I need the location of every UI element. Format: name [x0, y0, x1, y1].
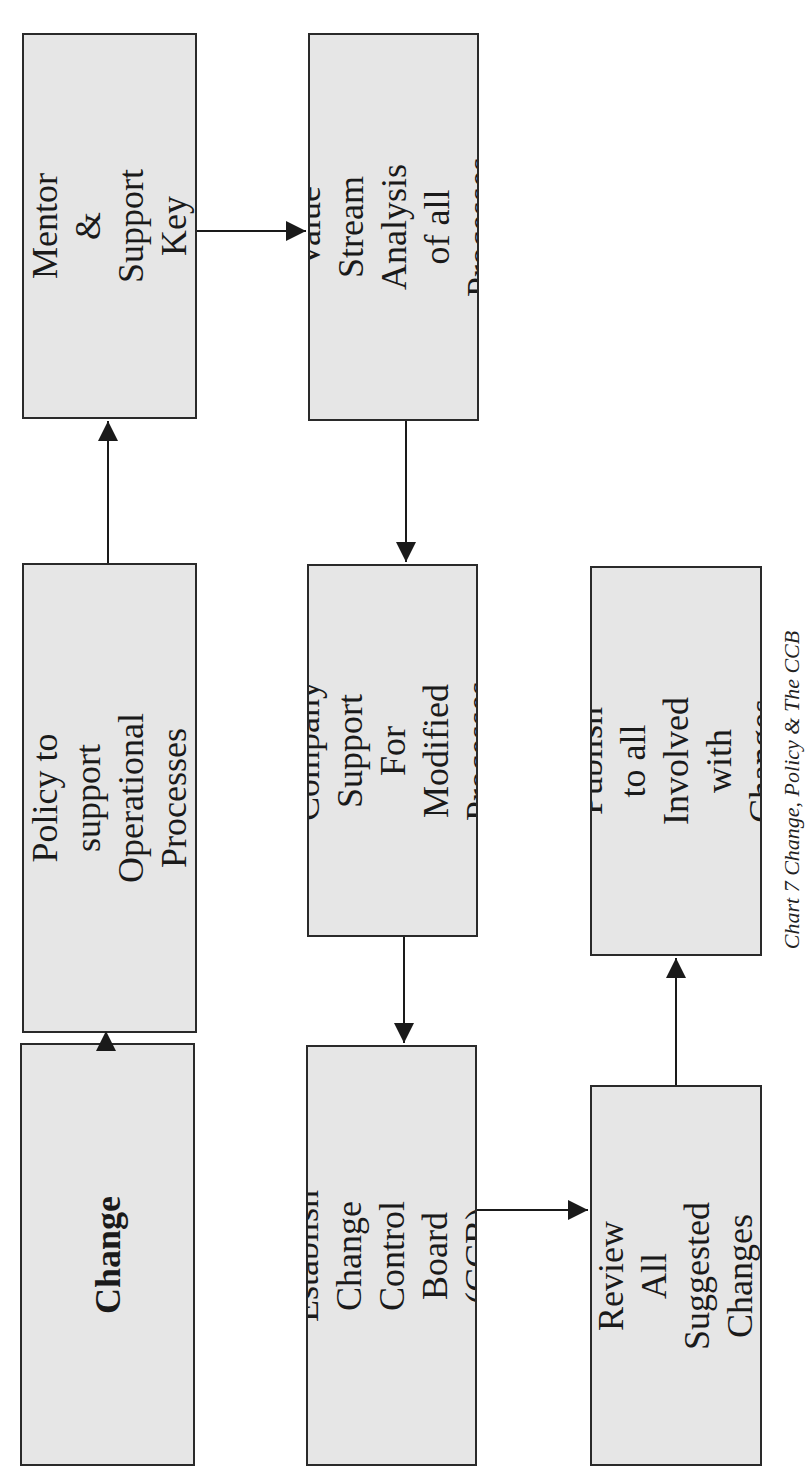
- arrowhead-up-icon: [666, 958, 686, 978]
- arrowhead-up-icon: [98, 421, 118, 441]
- arrowhead-right-icon: [286, 221, 306, 241]
- arrowhead-right-icon: [568, 1200, 588, 1220]
- connector-arrows: [0, 0, 807, 1473]
- arrowhead-up-icon: [96, 1031, 116, 1051]
- arrowhead-down-icon: [394, 1023, 414, 1043]
- arrowhead-down-icon: [396, 542, 416, 562]
- figure-caption: Chart 7 Change, Policy & The CCB: [779, 631, 805, 949]
